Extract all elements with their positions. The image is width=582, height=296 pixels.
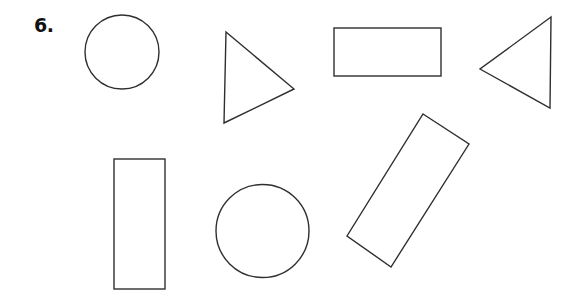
triangle-pointing-left xyxy=(480,17,551,108)
rectangle-tilted xyxy=(347,114,469,267)
circle-top-left xyxy=(85,15,159,89)
triangle-pointing-right xyxy=(224,32,294,123)
circle-bottom xyxy=(216,185,309,278)
rectangle-horizontal xyxy=(334,28,441,76)
rectangle-vertical xyxy=(114,159,165,289)
shapes-canvas xyxy=(0,0,582,296)
